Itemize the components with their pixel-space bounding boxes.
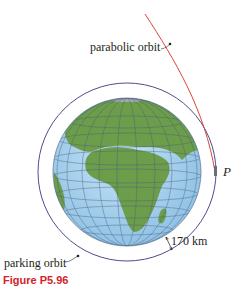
spacecraft-icon	[214, 166, 217, 176]
point-p-label: P	[223, 164, 231, 180]
figure-caption: Figure P5.96	[3, 274, 68, 286]
altitude-label: 170 km	[171, 234, 207, 249]
parabolic-orbit-label: parabolic orbit	[90, 40, 160, 55]
parking-orbit-label: parking orbit	[4, 256, 66, 271]
